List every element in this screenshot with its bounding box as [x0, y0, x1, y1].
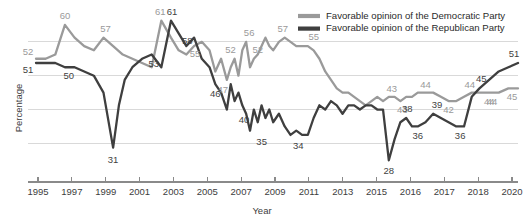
data-label: 35	[256, 136, 267, 147]
data-label: 56	[244, 27, 255, 38]
x-axis-tick-label: 2009	[264, 186, 285, 197]
data-label: 38	[402, 103, 413, 114]
legend-label: Favorable opinion of the Democratic Part…	[326, 10, 505, 21]
data-label: 52	[253, 44, 264, 55]
x-axis-tick-label: 2018	[468, 186, 489, 197]
data-label: 55	[190, 48, 201, 59]
x-axis-tick-label: 2020	[501, 186, 522, 197]
x-axis-tick-label: 1995	[27, 186, 48, 197]
data-label: 28	[384, 165, 395, 176]
chart-container: 5260576155475256525755434344424444455150…	[0, 0, 525, 218]
data-label: 51	[23, 64, 34, 75]
data-label: 51	[509, 48, 520, 59]
data-label: 44	[420, 79, 431, 90]
data-label: 44	[484, 96, 495, 107]
chart-legend: Favorable opinion of the Democratic Part…	[298, 10, 505, 34]
x-axis-tick-label: 1999	[95, 186, 116, 197]
x-axis-tick-label: 2001	[129, 186, 150, 197]
data-label: 40	[239, 114, 250, 125]
x-axis-tick-label: 1997	[61, 186, 82, 197]
x-axis-tick-label: 2015	[366, 186, 387, 197]
data-label: 45	[476, 73, 487, 84]
x-axis-tick-label: 2011	[299, 186, 319, 197]
legend-swatch	[298, 14, 320, 18]
x-axis-tick-label: 2003	[163, 186, 184, 197]
data-label: 36	[412, 130, 423, 141]
data-label: 58	[182, 35, 193, 46]
data-label: 53	[148, 58, 159, 69]
x-axis-tick-label: 2013	[332, 186, 353, 197]
data-label: 31	[108, 154, 119, 165]
data-label: 45	[507, 91, 518, 102]
data-label: 39	[432, 99, 443, 110]
data-label: 44	[464, 79, 475, 90]
x-axis-title: Year	[252, 205, 271, 216]
data-label: 46	[210, 88, 221, 99]
data-label: 61	[167, 6, 178, 17]
legend-label: Favorable opinion of the Republican Part…	[326, 22, 505, 33]
data-label: 42	[443, 104, 454, 115]
line-chart: 5260576155475256525755434344424444455150…	[0, 0, 525, 218]
data-label: 50	[63, 70, 74, 81]
data-label: 60	[60, 10, 71, 21]
data-label: 55	[309, 31, 320, 42]
x-axis-tick-label: 2005	[197, 186, 218, 197]
data-label: 36	[455, 130, 466, 141]
x-axis-tick-label: 2007	[231, 186, 252, 197]
y-axis-title: Percentage	[13, 84, 24, 133]
data-label: 43	[387, 83, 398, 94]
data-label: 57	[277, 23, 288, 34]
x-axis-tick-label: 2016	[400, 186, 421, 197]
data-label: 52	[225, 44, 236, 55]
data-label: 57	[100, 23, 111, 34]
data-label: 52	[23, 46, 34, 57]
legend-swatch	[298, 27, 320, 31]
x-axis-tick-label: 2017	[434, 186, 455, 197]
data-label: 34	[293, 140, 304, 151]
data-label: 61	[155, 6, 166, 17]
